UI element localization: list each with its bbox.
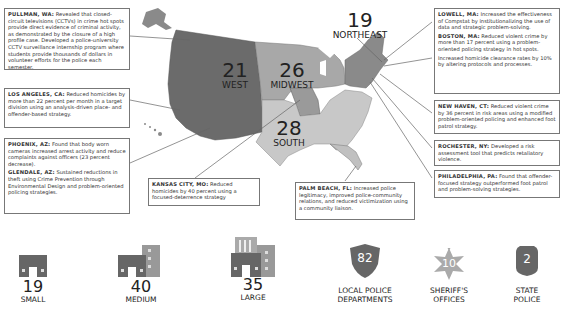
stat-label: MEDIUM — [116, 295, 166, 304]
stat-label: DEPARTMENTS — [325, 295, 405, 304]
stat-count: 19 — [8, 279, 58, 295]
stat-label: POLICE — [502, 295, 552, 304]
callout-palm-beach: PALM BEACH, FL: Increased police legitim… — [295, 182, 415, 220]
callout-kansas-city: KANSAS CITY, MO: Reduced homicides by 40… — [148, 178, 260, 206]
region-south: 28 SOUTH — [264, 118, 314, 148]
stat-sheriff: SHERIFF'S OFFICES — [414, 286, 484, 304]
florida-shape — [330, 144, 362, 170]
callout-city: LOS ANGELES, CA: — [8, 91, 65, 97]
callout-phoenix-glendale: PHOENIX, AZ: Found that body worn camera… — [4, 138, 130, 214]
northeast-region — [345, 32, 388, 88]
stat-medium: 40 MEDIUM — [116, 279, 166, 304]
callout-text: Increased homicide clearance rates by 10… — [438, 55, 552, 68]
callout-rochester: ROCHESTER, NY: Developed a risk assessme… — [434, 140, 560, 166]
callout-city: NEW HAVEN, CT: — [438, 103, 489, 109]
region-northeast-count: 19 — [320, 10, 400, 30]
stat-count: 10 — [432, 257, 466, 270]
large-building-icon — [231, 237, 275, 277]
callout-lowell-boston: LOWELL, MA: Increased the effectiveness … — [434, 8, 560, 94]
callout-city: PHOENIX, AZ: — [8, 141, 50, 147]
region-midwest: 26 MIDWEST — [262, 60, 322, 90]
callout-philadelphia: PHILADELPHIA, PA: Found that offender-fo… — [434, 170, 560, 198]
stat-small: 19 SMALL — [8, 279, 58, 304]
stat-large: 35 LARGE — [228, 277, 278, 302]
callout-text: Revealed that closed-circuit televisions… — [8, 11, 124, 70]
medium-building-icon — [118, 245, 160, 277]
region-west-count: 21 — [210, 60, 260, 80]
stat-count: 82 — [350, 251, 380, 265]
stat-state-police: STATE POLICE — [502, 286, 552, 304]
callout-city: GLENDALE, AZ: — [8, 169, 55, 175]
region-northeast-name: NORTHEAST — [320, 30, 400, 40]
callout-city: ROCHESTER, NY: — [438, 143, 489, 149]
callout-city: KANSAS CITY, MO: — [152, 181, 208, 187]
small-building-icon — [19, 253, 47, 277]
hawaii-shape — [144, 123, 162, 136]
callout-city: PHILADELPHIA, PA: — [438, 173, 497, 179]
callout-pullman: PULLMAN, WA: Revealed that closed-circui… — [4, 8, 130, 70]
sheriff-star-icon: 10 — [432, 248, 466, 280]
region-south-count: 28 — [264, 118, 314, 138]
region-south-name: SOUTH — [264, 138, 314, 148]
region-midwest-count: 26 — [262, 60, 322, 80]
stat-label: LARGE — [228, 293, 278, 302]
stat-label: OFFICES — [414, 295, 484, 304]
stat-label: SMALL — [8, 295, 58, 304]
alaska-shape — [142, 8, 172, 30]
region-midwest-name: MIDWEST — [262, 80, 322, 90]
stat-label: LOCAL POLICE — [325, 286, 405, 295]
region-west-name: WEST — [210, 80, 260, 90]
callout-los-angeles: LOS ANGELES, CA: Reduced homicides by mo… — [4, 88, 130, 128]
stat-count: 2 — [516, 252, 538, 266]
region-west: 21 WEST — [210, 60, 260, 90]
stat-label: SHERIFF'S — [414, 286, 484, 295]
callout-city: PULLMAN, WA: — [8, 11, 54, 17]
callout-city: BOSTON, MA: — [438, 33, 480, 39]
stat-local-police: LOCAL POLICE DEPARTMENTS — [325, 286, 405, 304]
police-shield-icon: 82 — [350, 244, 380, 278]
stat-count: 35 — [228, 277, 278, 293]
callout-city: LOWELL, MA: — [438, 11, 479, 17]
stat-label: STATE — [502, 286, 552, 295]
callout-city: PALM BEACH, FL: — [299, 185, 352, 191]
stat-count: 40 — [116, 279, 166, 295]
state-badge-icon: 2 — [516, 246, 538, 276]
region-northeast: 19 NORTHEAST — [320, 10, 400, 40]
callout-new-haven: NEW HAVEN, CT: Reduced violent crime by … — [434, 100, 560, 134]
